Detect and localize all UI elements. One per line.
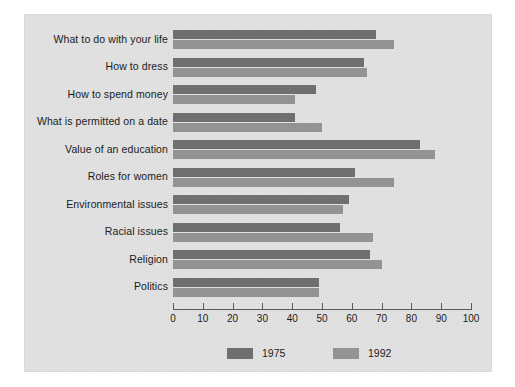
- category-label: Racial issues: [16, 226, 168, 237]
- x-tick-label: 10: [188, 313, 218, 324]
- x-tick-label: 60: [337, 313, 367, 324]
- legend-swatch-icon: [333, 348, 359, 359]
- bar-1975-4: [173, 140, 420, 149]
- bar-1992-2: [173, 95, 295, 104]
- category-label: How to spend money: [16, 89, 168, 100]
- bar-1992-9: [173, 288, 319, 297]
- bar-1975-3: [173, 113, 295, 122]
- bar-1992-8: [173, 260, 382, 269]
- x-tick: [203, 303, 204, 310]
- bar-1992-5: [173, 178, 394, 187]
- x-tick: [292, 303, 293, 310]
- bar-1992-1: [173, 68, 367, 77]
- category-label: Value of an education: [16, 144, 168, 155]
- legend-label: 1992: [368, 347, 391, 359]
- bar-1975-2: [173, 85, 316, 94]
- x-tick: [471, 303, 472, 310]
- x-tick-label: 30: [247, 313, 277, 324]
- x-tick-label: 40: [277, 313, 307, 324]
- x-tick: [441, 303, 442, 310]
- x-tick-label: 80: [396, 313, 426, 324]
- x-tick: [382, 303, 383, 310]
- x-tick-label: 90: [426, 313, 456, 324]
- bar-1975-1: [173, 58, 364, 67]
- category-label: How to dress: [16, 61, 168, 72]
- legend-item-1975: 1975: [227, 345, 285, 361]
- bar-1975-7: [173, 223, 340, 232]
- category-label: Religion: [16, 254, 168, 265]
- x-tick-label: 100: [456, 313, 486, 324]
- category-label: Politics: [16, 281, 168, 292]
- legend-item-1992: 1992: [333, 345, 391, 361]
- bar-1992-6: [173, 205, 343, 214]
- x-tick-label: 0: [158, 313, 188, 324]
- category-label: What to do with your life: [16, 34, 168, 45]
- x-tick: [233, 303, 234, 310]
- chart-legend: 19751992: [173, 345, 473, 363]
- x-tick-label: 50: [307, 313, 337, 324]
- category-label: Environmental issues: [16, 199, 168, 210]
- x-tick: [173, 303, 174, 310]
- x-tick: [352, 303, 353, 310]
- horizontal-bar-chart: What to do with your lifeHow to dressHow…: [0, 0, 515, 387]
- bar-1975-9: [173, 278, 319, 287]
- category-axis-labels: What to do with your lifeHow to dressHow…: [16, 26, 168, 301]
- bar-1992-3: [173, 123, 322, 132]
- x-tick: [322, 303, 323, 310]
- bar-1975-0: [173, 30, 376, 39]
- category-label: Roles for women: [16, 171, 168, 182]
- bar-1975-6: [173, 195, 349, 204]
- x-tick-label: 70: [367, 313, 397, 324]
- bar-1992-4: [173, 150, 435, 159]
- chart-page: What to do with your lifeHow to dressHow…: [0, 0, 515, 387]
- plot-area: [173, 26, 471, 301]
- legend-label: 1975: [262, 347, 285, 359]
- bar-1992-0: [173, 40, 394, 49]
- x-tick-label: 20: [218, 313, 248, 324]
- bar-1992-7: [173, 233, 373, 242]
- bar-1975-5: [173, 168, 355, 177]
- x-tick: [411, 303, 412, 310]
- legend-swatch-icon: [227, 348, 253, 359]
- bar-1975-8: [173, 250, 370, 259]
- category-label: What is permitted on a date: [16, 116, 168, 127]
- x-tick: [262, 303, 263, 310]
